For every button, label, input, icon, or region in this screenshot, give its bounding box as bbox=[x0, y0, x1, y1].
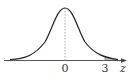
tick-label-3: 3 bbox=[102, 62, 109, 75]
axis-label-z: z bbox=[119, 62, 126, 75]
normal-curve-diagram: 0 3 z bbox=[0, 0, 136, 84]
bell-curve bbox=[10, 8, 118, 60]
tick-label-0: 0 bbox=[62, 62, 69, 75]
